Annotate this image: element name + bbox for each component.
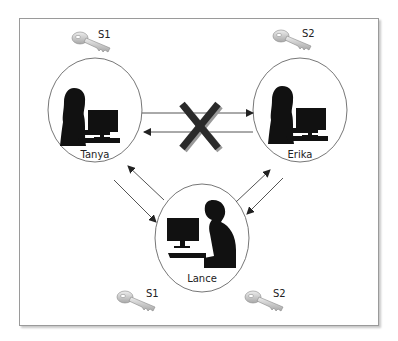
edge-erika-lance (247, 178, 283, 214)
diagram-canvas: Tanya Erika Lance S1 S2 S1 S2 (0, 0, 398, 341)
node-label-tanya: Tanya (80, 149, 110, 160)
key-label-s1-lance: S1 (146, 288, 159, 299)
key-label-s2-erika: S2 (302, 28, 315, 39)
key-label-s2-lance: S2 (273, 288, 286, 299)
edge-lance-erika (236, 170, 270, 202)
node-label-lance: Lance (187, 273, 217, 284)
edge-lance-tanya (128, 166, 164, 200)
key-label-s1-tanya: S1 (98, 29, 111, 40)
blocked-x-icon (182, 104, 220, 150)
node-label-erika: Erika (288, 149, 313, 160)
